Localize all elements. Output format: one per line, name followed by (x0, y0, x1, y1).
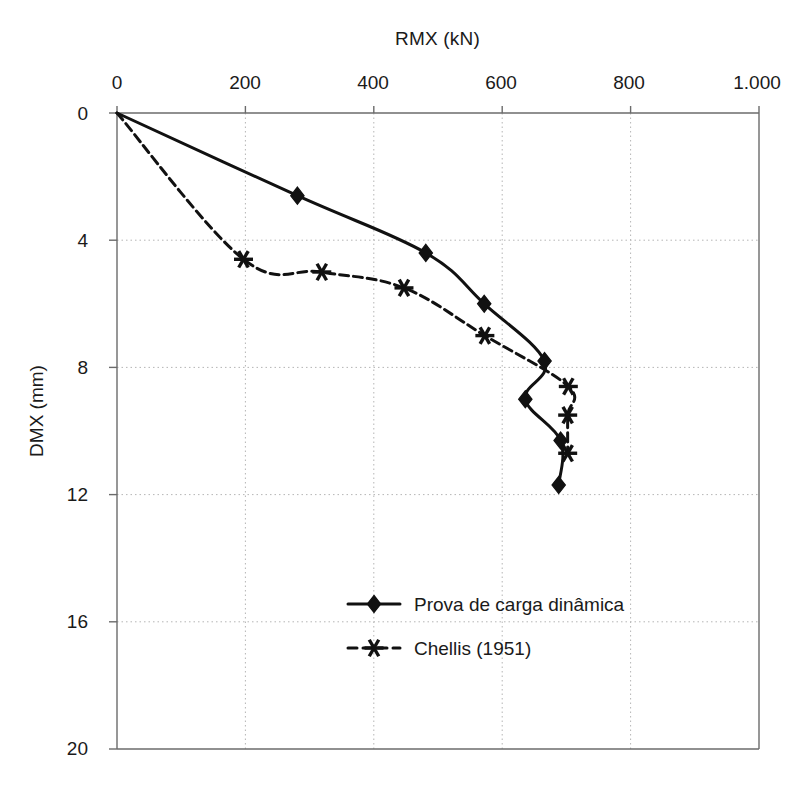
data-series (117, 113, 578, 494)
data-point-marker (291, 187, 304, 204)
legend-item-chellis-1951[interactable]: Chellis (1951) (348, 638, 531, 659)
legend-label: Chellis (1951) (414, 638, 531, 659)
legend-item-prova-de-carga-dinamica[interactable]: Prova de carga dinâmica (348, 594, 625, 615)
data-point-marker (312, 264, 331, 280)
series-line (117, 113, 575, 453)
chart-legend: Prova de carga dinâmicaChellis (1951) (348, 594, 625, 659)
legend-label: Prova de carga dinâmica (414, 594, 625, 615)
legend-marker-diamond-icon (367, 596, 380, 613)
data-point-marker (559, 378, 578, 394)
data-point-marker (552, 477, 565, 494)
series-line (117, 113, 563, 485)
data-point-marker (419, 244, 432, 261)
series-prova-de-carga-dinamica (117, 113, 567, 494)
plot-area: Prova de carga dinâmicaChellis (1951) (0, 0, 805, 789)
data-point-marker (394, 280, 413, 296)
series-chellis-1951 (117, 113, 578, 461)
data-point-marker (519, 391, 532, 408)
data-point-marker (475, 327, 494, 343)
chart-container: RMX (kN) DMX (mm) 0 200 400 600 800 1.00… (0, 0, 805, 789)
